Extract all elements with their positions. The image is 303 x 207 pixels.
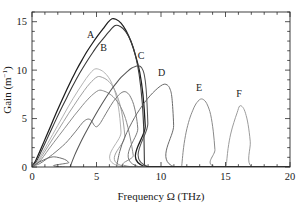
curve-c (70, 66, 290, 167)
curve-label-a: A (87, 29, 95, 40)
curve-unlabeled-1 (32, 69, 290, 167)
top-caption-sliver (0, 0, 303, 7)
curve-f (226, 106, 290, 169)
gain-vs-frequency-chart: 05101520051015 ABCDEF Frequency Ω (THz) … (0, 0, 303, 207)
curves-layer (32, 19, 290, 169)
x-tick-label-10: 10 (156, 171, 167, 182)
y-tick-label-5: 5 (22, 113, 27, 124)
curve-label-e: E (196, 82, 202, 93)
figure-container: 05101520051015 ABCDEF Frequency Ω (THz) … (0, 0, 303, 207)
x-tick-label-0: 0 (29, 171, 34, 182)
curve-label-f: F (236, 88, 242, 99)
x-tick-label-5: 5 (94, 171, 99, 182)
y-tick-label-0: 0 (22, 162, 27, 173)
x-axis-title: Frequency Ω (THz) (118, 190, 205, 203)
y-tick-label-10: 10 (17, 65, 28, 76)
curve-label-b: B (100, 42, 107, 53)
curve-e (182, 99, 290, 167)
curve-label-d: D (158, 67, 165, 78)
curve-label-c: C (138, 50, 145, 61)
curve-b (32, 25, 290, 167)
y-tick-label-15: 15 (17, 16, 28, 27)
x-tick-label-15: 15 (220, 171, 231, 182)
y-axis-title-close: ) (1, 66, 14, 70)
x-tick-label-20: 20 (285, 171, 296, 182)
curve-labels: ABCDEF (87, 29, 242, 99)
y-axis-title: Gain (m−1) (1, 66, 14, 114)
y-axis-title-base: Gain (m (1, 77, 14, 114)
svg-text:Gain (m−1): Gain (m−1) (1, 66, 14, 114)
curve-d (117, 84, 291, 167)
curve-a (32, 19, 290, 167)
